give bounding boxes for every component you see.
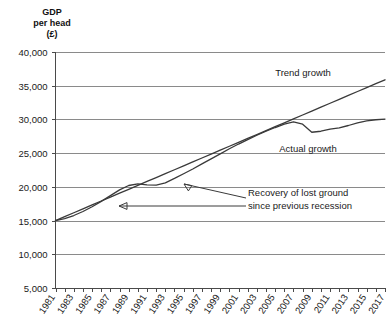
x-tick-label: 1985 (73, 292, 94, 316)
y-tick-label: 40,000 (18, 47, 47, 58)
chart-title-line-1: GDP (42, 7, 62, 17)
x-tick-label: 1989 (109, 292, 130, 316)
x-tick-label: 2011 (311, 292, 332, 315)
recovery-label-line2: since previous recession (248, 200, 352, 211)
recovery-label-line1: Recovery of lost ground (248, 187, 348, 198)
x-tick-label: 2001 (219, 292, 240, 316)
trend-growth-label: Trend growth (275, 67, 331, 78)
x-tick-label: 1991 (128, 292, 149, 316)
y-tick-label: 35,000 (18, 81, 47, 92)
gdp-per-head-chart: GDP per head (£) 40,00035,00030,00025,00… (0, 0, 392, 321)
chart-annotations: Trend growthActual growthRecovery of los… (248, 67, 352, 211)
chart-title-line-2: per head (33, 18, 71, 28)
y-tick-label: 30,000 (18, 114, 47, 125)
gridlines (56, 53, 386, 289)
chart-title-line-3: (£) (47, 29, 58, 39)
x-tick-label: 2005 (256, 292, 277, 316)
x-tick-label: 2013 (329, 292, 350, 316)
x-tick-label: 1999 (201, 292, 222, 316)
actual-growth-label: Actual growth (279, 143, 337, 154)
x-tick-label: 1993 (146, 292, 167, 316)
x-tick-label: 1995 (164, 292, 185, 316)
chart-title-block: GDP per head (£) (33, 7, 71, 39)
x-tick-label: 1987 (91, 292, 112, 316)
x-axis-tick-labels: 1981198319851987198919911993199519971999… (36, 292, 386, 316)
chart-canvas: GDP per head (£) 40,00035,00030,00025,00… (0, 0, 392, 321)
x-tick-label: 1983 (55, 292, 76, 316)
recovery-arrow-diagonal (184, 184, 246, 198)
x-tick-label: 2017 (366, 292, 387, 316)
x-tick-label: 2007 (274, 292, 295, 316)
x-tick-label: 2009 (292, 292, 313, 316)
y-tick-label: 5,000 (24, 283, 48, 294)
y-tick-label: 20,000 (18, 182, 47, 193)
x-tick-label: 1981 (36, 292, 57, 316)
y-tick-label: 10,000 (18, 249, 47, 260)
x-tick-label: 2003 (238, 292, 259, 316)
y-axis-tick-labels: 40,00035,00030,00025,00020,00015,00010,0… (18, 47, 47, 294)
y-tick-label: 25,000 (18, 148, 47, 159)
y-tick-label: 15,000 (18, 216, 47, 227)
x-tick-label: 1997 (183, 292, 204, 316)
x-tick-label: 2015 (347, 292, 368, 316)
